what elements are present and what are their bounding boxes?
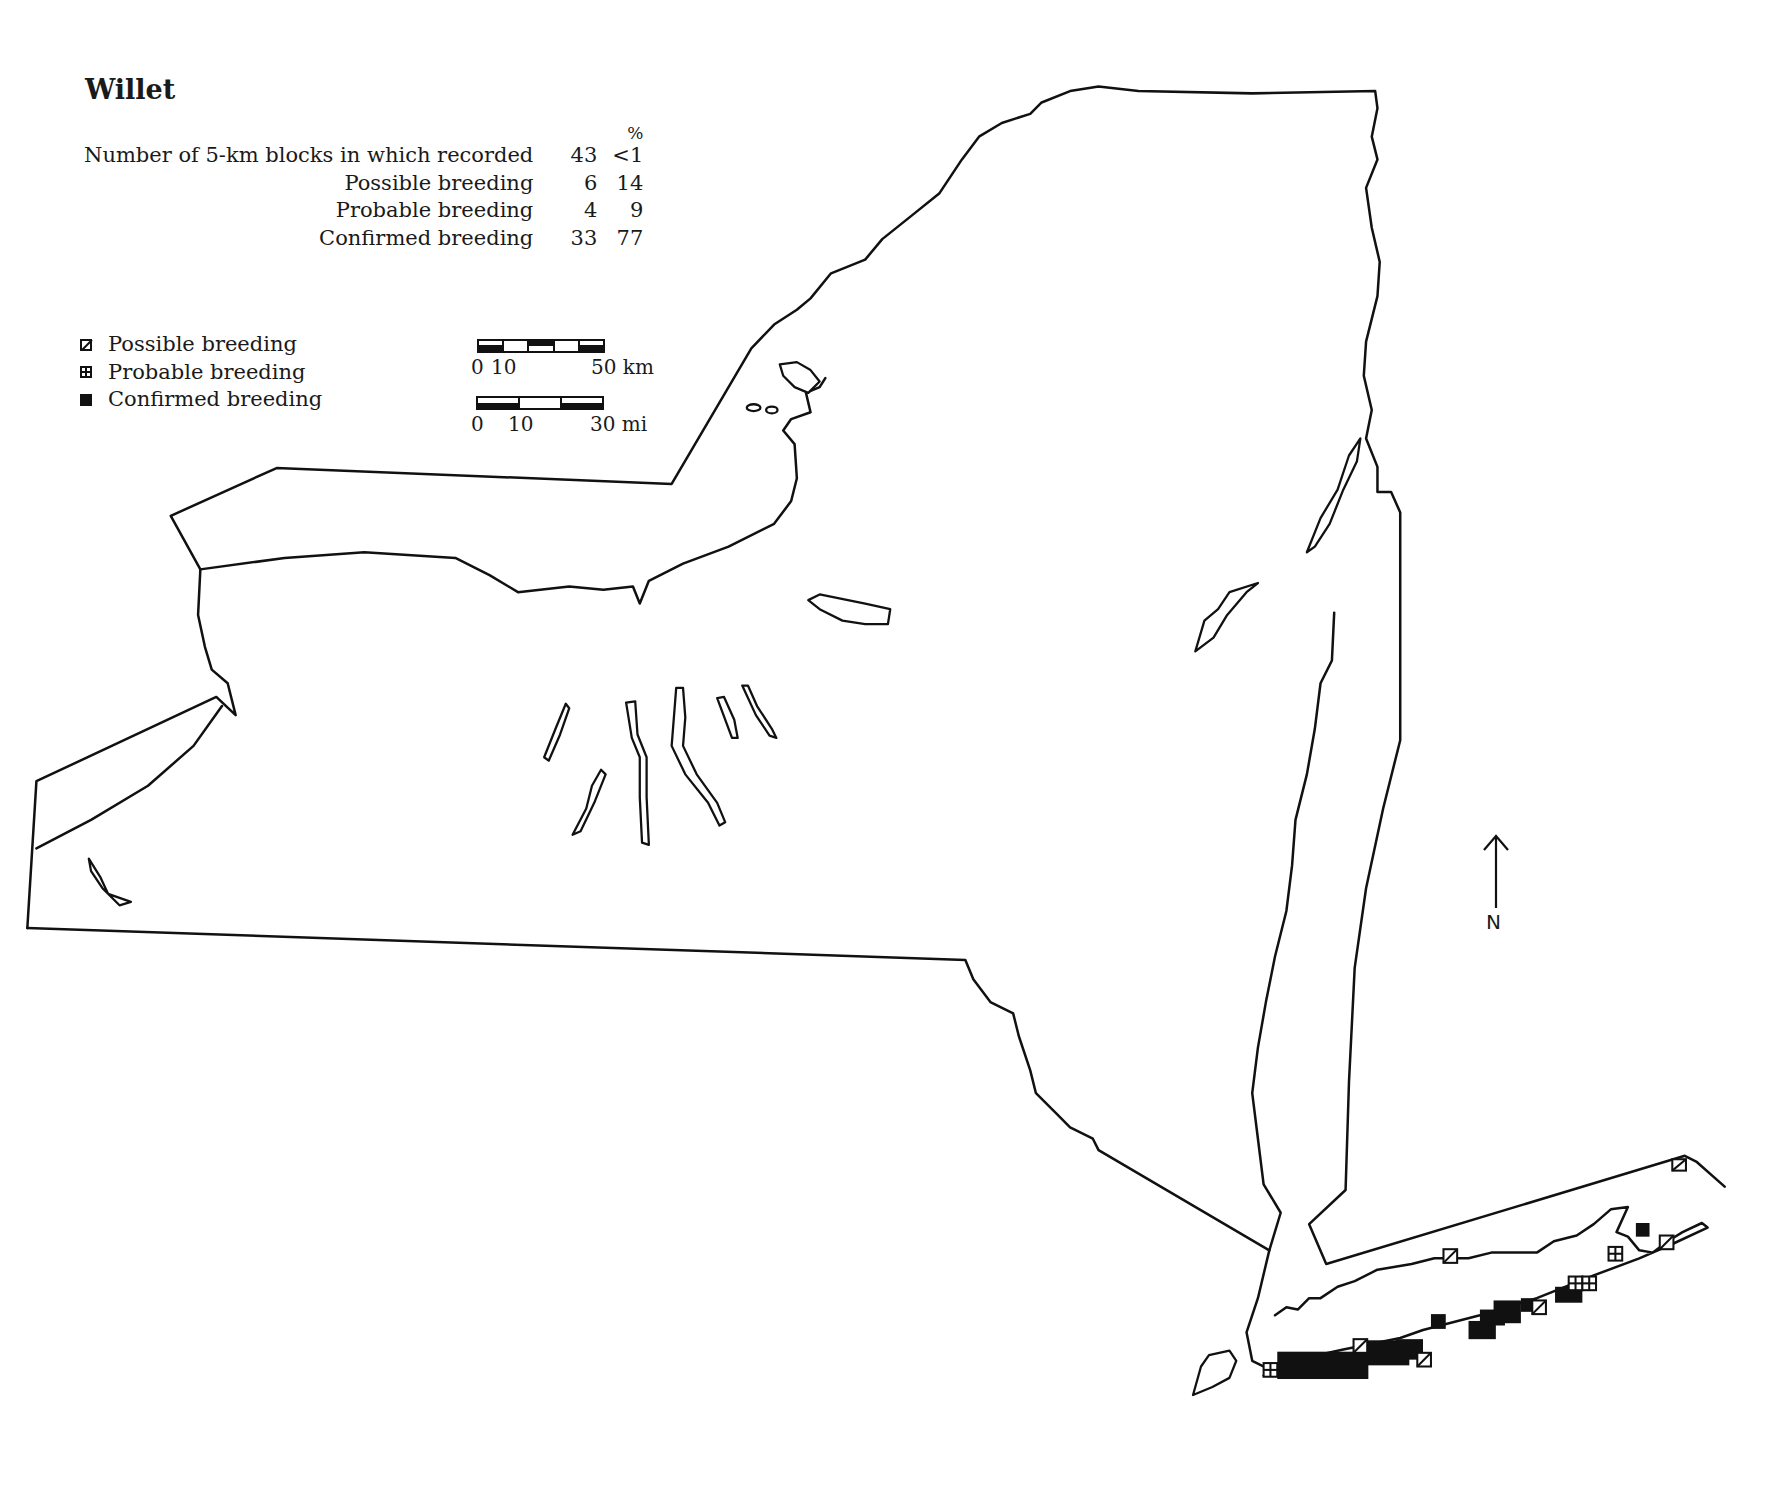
scale-bar-km: 0 10 50 km: [477, 339, 605, 379]
hudson-river: [1247, 613, 1335, 1373]
arrow-up-icon: [1478, 830, 1518, 910]
scale-bar-km-graphic: [477, 339, 605, 353]
scale-mi-label-10: 10: [508, 412, 533, 436]
scale-bar-mi-graphic: [476, 396, 604, 410]
finger-lake-skaneateles: [742, 686, 776, 738]
stats-count: 43: [563, 142, 597, 170]
stats-percent: <1: [597, 142, 643, 170]
scale-km-label-50: 50 km: [591, 355, 654, 379]
stats-label: Confirmed breeding: [84, 225, 563, 253]
confirmed-breeding-markers: [1277, 1223, 1649, 1379]
stats-row-probable: Probable breeding 4 9: [84, 197, 643, 225]
stats-label: Probable breeding: [84, 197, 563, 225]
lake-george: [1195, 583, 1258, 651]
percent-header: %: [597, 124, 643, 142]
finger-lake-cayuga: [672, 688, 726, 826]
southern-border: [27, 928, 1269, 1250]
square-slash-icon: [80, 339, 92, 351]
scale-km-label-10: 10: [491, 355, 516, 379]
stats-label: Number of 5-km blocks in which recorded: [84, 142, 563, 170]
chautauqua-lake: [89, 859, 131, 906]
finger-lake-canandaigua: [544, 704, 569, 761]
staten-island: [1193, 1351, 1236, 1395]
stats-percent: 77: [597, 225, 643, 253]
stats-count: 4: [563, 197, 597, 225]
stats-row-total: Number of 5-km blocks in which recorded …: [84, 142, 643, 170]
finger-lake-keuka: [573, 770, 606, 835]
scale-mi-label-30: 30 mi: [590, 412, 647, 436]
state-outline: [27, 87, 1724, 1264]
thousand-islands: [780, 362, 820, 393]
stats-row-confirmed: Confirmed breeding 33 77: [84, 225, 643, 253]
lake-champlain: [1307, 438, 1361, 552]
legend-item-probable: Probable breeding: [80, 359, 322, 387]
finger-lake-owasco: [717, 697, 737, 738]
filled-square-icon: [80, 394, 92, 406]
scale-mi-label-0: 0: [471, 412, 484, 436]
legend-label: Probable breeding: [108, 359, 306, 387]
stats-label: Possible breeding: [84, 170, 563, 198]
north-arrow: N: [1478, 830, 1518, 940]
stats-percent: 14: [597, 170, 643, 198]
legend-label: Confirmed breeding: [108, 386, 322, 414]
legend-label: Possible breeding: [108, 331, 297, 359]
stats-percent: 9: [597, 197, 643, 225]
possible-breeding-markers: [1354, 1159, 1686, 1366]
finger-lake-seneca: [626, 701, 649, 844]
stats-count: 33: [563, 225, 597, 253]
legend-item-possible: Possible breeding: [80, 331, 322, 359]
square-cross-icon: [80, 366, 92, 378]
oneida-lake: [808, 594, 890, 624]
scale-bar-mi: 0 10 30 mi: [476, 396, 604, 436]
stats-row-possible: Possible breeding 6 14: [84, 170, 643, 198]
stats-table: % Number of 5-km blocks in which recorde…: [84, 124, 643, 252]
legend: Possible breeding Probable breeding Conf…: [80, 331, 322, 414]
stats-count: 6: [563, 170, 597, 198]
legend-item-confirmed: Confirmed breeding: [80, 386, 322, 414]
lake-erie-shore: [36, 706, 222, 848]
scale-km-label-0: 0: [471, 355, 484, 379]
map-title: Willet: [85, 74, 175, 105]
north-label: N: [1486, 910, 1501, 934]
